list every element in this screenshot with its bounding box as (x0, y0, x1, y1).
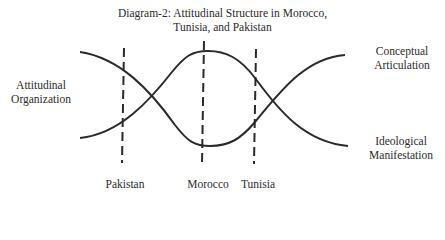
pakistan-label: Pakistan (100, 177, 150, 191)
tunisia-label: Tunisia (235, 177, 281, 191)
ideological-manifestation-label: Ideological Manifestation (358, 134, 444, 162)
label-line: Ideological (358, 134, 444, 148)
label-line: Organization (4, 92, 78, 106)
label-line: Conceptual (362, 44, 442, 58)
conceptual-articulation-label: Conceptual Articulation (362, 44, 442, 72)
morocco-label: Morocco (183, 177, 233, 191)
label-line: Manifestation (358, 148, 444, 162)
label-line: Articulation (362, 58, 442, 72)
label-line: Attitudinal (4, 78, 78, 92)
attitudinal-organization-label: Attitudinal Organization (4, 78, 78, 106)
pakistan-marker-line (122, 48, 124, 163)
tunisia-marker-line (254, 49, 256, 164)
curve-rising-then-descending (80, 51, 348, 146)
